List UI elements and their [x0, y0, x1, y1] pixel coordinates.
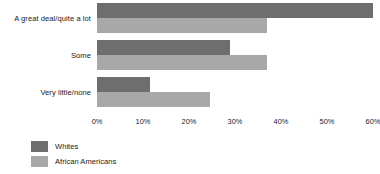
x-tick-label: 40%	[274, 116, 289, 127]
x-axis: 0%10%20%30%40%50%60%	[97, 116, 373, 128]
legend-item-african-americans: African Americans	[31, 154, 211, 168]
legend: Whites African Americans	[31, 139, 211, 169]
x-tick-label: 30%	[228, 116, 243, 127]
bar-whites	[97, 40, 230, 55]
bar-african-americans	[97, 18, 267, 33]
category-label: Some	[0, 40, 91, 71]
bar-african-americans	[97, 55, 267, 70]
category-label: Very little/none	[0, 77, 91, 108]
bar-whites	[97, 3, 373, 18]
x-tick-label: 10%	[136, 116, 151, 127]
x-tick-label: 50%	[320, 116, 335, 127]
bar-whites	[97, 77, 150, 92]
bar-group	[97, 77, 373, 108]
bar-group	[97, 3, 373, 34]
plot-area: A great deal/quite a lot Some Very littl…	[0, 0, 373, 112]
category-group: A great deal/quite a lot	[0, 3, 373, 34]
x-tick-label: 20%	[182, 116, 197, 127]
category-group: Some	[0, 40, 373, 71]
legend-label-african-americans: African Americans	[55, 157, 116, 166]
x-tick-label: 0%	[92, 116, 103, 127]
bar-group	[97, 40, 373, 71]
category-label: A great deal/quite a lot	[0, 3, 91, 34]
legend-swatch-whites	[31, 141, 48, 152]
legend-swatch-african-americans	[31, 156, 48, 167]
legend-item-whites: Whites	[31, 139, 211, 153]
x-tick-label: 60%	[366, 116, 380, 127]
legend-label-whites: Whites	[55, 142, 78, 151]
bar-african-americans	[97, 92, 210, 107]
category-group: Very little/none	[0, 77, 373, 108]
